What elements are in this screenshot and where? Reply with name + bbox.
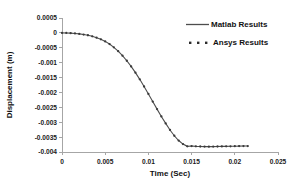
data-point-marker [173, 135, 175, 137]
data-point-marker [100, 38, 102, 40]
data-point-marker [195, 145, 197, 147]
data-point-marker [186, 145, 188, 147]
x-tick-label: 0.01 [142, 158, 155, 165]
data-point-marker [216, 145, 218, 147]
y-tick-label: 0.0005 [37, 14, 58, 21]
data-point-marker [121, 55, 123, 57]
x-tick-label: 0.005 [97, 158, 114, 165]
data-point-marker [87, 34, 89, 36]
legend-dot [197, 42, 199, 44]
y-tick-label: -0.001 [38, 59, 57, 66]
data-point-marker [234, 145, 236, 147]
x-tick-label: 0 [60, 158, 64, 165]
y-tick-label: -0.0005 [35, 44, 58, 51]
data-point-marker [108, 43, 110, 45]
data-point-marker [91, 35, 93, 37]
data-point-marker [143, 85, 145, 87]
data-point-marker [139, 78, 141, 80]
data-point-marker [152, 100, 154, 102]
x-tick-label: 0.02 [228, 158, 241, 165]
x-tick-label: 0.025 [270, 158, 287, 165]
data-point-marker [134, 71, 136, 73]
ansys-results-markers [61, 32, 249, 148]
legend-label-ansys: Ansys Results [213, 38, 269, 47]
matlab-results-line [62, 33, 248, 147]
data-point-marker [130, 65, 132, 67]
data-point-marker [165, 122, 167, 124]
data-point-marker [78, 33, 80, 35]
legend-dot [205, 42, 207, 44]
legend-label-matlab: Matlab Results [211, 20, 268, 29]
data-point-marker [190, 145, 192, 147]
data-point-marker [208, 145, 210, 147]
data-point-marker [69, 32, 71, 34]
x-tick-label: 0.015 [183, 158, 200, 165]
y-tick-label: -0.003 [38, 119, 57, 126]
data-point-marker [212, 145, 214, 147]
data-point-marker [113, 46, 115, 48]
chart-canvas: 0.00050-0.0005-0.001-0.0015-0.002-0.0025… [0, 0, 307, 185]
data-point-marker [160, 115, 162, 117]
x-axis-title: Time (Sec) [150, 169, 191, 178]
y-tick-label: 0 [53, 29, 57, 36]
legend-dot-swatch [189, 42, 207, 44]
data-point-marker [203, 145, 205, 147]
legend: Matlab Results Ansys Results [186, 20, 269, 47]
data-point-marker [238, 145, 240, 147]
data-point-marker [199, 145, 201, 147]
data-point-marker [169, 129, 171, 131]
data-point-marker [177, 139, 179, 141]
data-point-marker [247, 145, 249, 147]
data-point-marker [95, 37, 97, 39]
data-point-marker [117, 50, 119, 52]
data-point-marker [61, 32, 63, 34]
data-point-marker [82, 33, 84, 35]
y-tick-label: -0.0025 [35, 104, 58, 111]
y-tick-label: -0.004 [38, 148, 57, 155]
y-tick-label: -0.002 [38, 89, 57, 96]
data-point-marker [221, 145, 223, 147]
legend-dot [189, 42, 191, 44]
y-tick-label: -0.0015 [35, 74, 58, 81]
data-point-marker [74, 32, 76, 34]
y-tick-label: -0.0035 [35, 134, 58, 141]
data-point-marker [225, 145, 227, 147]
x-axis-labels: 00.0050.010.0150.020.025 [60, 158, 286, 165]
data-point-marker [147, 93, 149, 95]
data-point-marker [156, 108, 158, 110]
data-point-marker [182, 143, 184, 145]
data-point-marker [65, 32, 67, 34]
data-point-marker [229, 145, 231, 147]
y-axis-labels: 0.00050-0.0005-0.001-0.0015-0.002-0.0025… [35, 14, 58, 155]
y-axis-title: Displacement (m) [5, 51, 14, 118]
data-point-marker [126, 60, 128, 62]
data-point-marker [104, 40, 106, 42]
chart-container: 0.00050-0.0005-0.001-0.0015-0.002-0.0025… [0, 0, 307, 185]
data-point-marker [242, 145, 244, 147]
